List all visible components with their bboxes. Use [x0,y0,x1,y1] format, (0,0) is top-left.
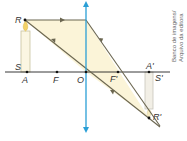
label-O: O [77,75,84,85]
lens-bottom-arrow-icon [83,127,89,133]
beam-region-image-side [86,20,149,118]
svg-text:Banco de imagens/: Banco de imagens/ [171,10,177,62]
image-credit: Banco de imagens/ Arquivo da editora [171,10,184,62]
ray-diagram: R S A F O F' A' S' R' Banco de imagens/ … [0,0,187,141]
label-R: R [15,15,22,25]
point-R [24,19,27,22]
label-A-prime: A' [145,61,154,71]
svg-text:Arquivo da editora: Arquivo da editora [178,13,184,62]
label-F-prime: F' [110,74,117,84]
point-F-prime [117,71,120,74]
label-S: S [15,62,21,72]
point-O [85,71,88,74]
label-F: F [53,75,59,85]
label-A: A [21,75,28,85]
object-candle [21,21,30,72]
point-A [26,71,29,74]
point-A-prime [148,71,151,74]
lens-top-arrow-icon [83,1,89,7]
flame-icon [23,21,28,31]
label-R-prime: R' [153,112,161,122]
point-R-prime [148,117,151,120]
label-S-prime: S' [155,73,163,83]
point-F [56,71,59,74]
